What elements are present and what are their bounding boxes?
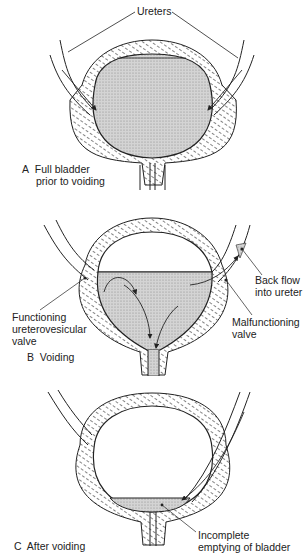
panel-b-letter: B (27, 351, 34, 363)
back-flow-line-1: Back flow (255, 274, 302, 286)
functioning-valve-label: Functioning ureterovesicular valve (12, 311, 87, 347)
functioning-valve-line-3: valve (12, 335, 87, 347)
malfunctioning-valve-line-2: valve (232, 328, 300, 340)
panel-c-letter: C (14, 540, 22, 552)
ureters-label: Ureters (137, 5, 171, 17)
panel-a-letter: A (22, 163, 29, 175)
panel-c-caption: C After voiding (14, 540, 85, 552)
functioning-valve-line-2: ureterovesicular (12, 323, 87, 335)
panel-c-caption-line-1: After voiding (27, 540, 85, 552)
panel-a-caption: A Full bladder prior to voiding (22, 163, 105, 187)
back-flow-line-2: into ureter (255, 286, 302, 298)
malfunctioning-valve-label: Malfunctioning valve (232, 316, 300, 340)
incomplete-emptying-label: Incomplete emptying of bladder (198, 529, 290, 553)
panel-a-caption-line-1: Full bladder (35, 163, 90, 175)
back-flow-label: Back flow into ureter (255, 274, 302, 298)
panel-a-caption-line-2: prior to voiding (22, 175, 105, 187)
malfunctioning-valve-line-1: Malfunctioning (232, 316, 300, 328)
incomplete-emptying-line-2: emptying of bladder (198, 541, 290, 553)
panel-b-caption: B Voiding (27, 351, 74, 363)
panel-b-caption-line-1: Voiding (40, 351, 74, 363)
panel-c-after-voiding (48, 390, 250, 546)
incomplete-emptying-line-1: Incomplete (198, 529, 290, 541)
functioning-valve-line-1: Functioning (12, 311, 87, 323)
